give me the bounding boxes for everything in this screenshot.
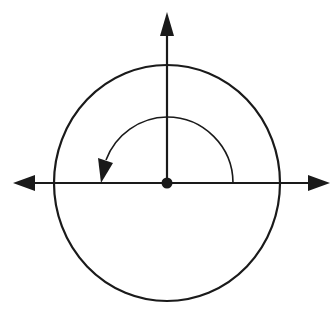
- y-axis-up-arrow-icon: [160, 12, 174, 36]
- unit-circle-diagram: [0, 0, 334, 319]
- origin-point: [162, 178, 173, 189]
- x-axis-left-arrow-icon: [13, 175, 35, 191]
- rotation-arc-arrowhead-icon: [98, 158, 113, 183]
- rotation-arc: [106, 117, 233, 183]
- x-axis-right-arrow-icon: [308, 175, 330, 191]
